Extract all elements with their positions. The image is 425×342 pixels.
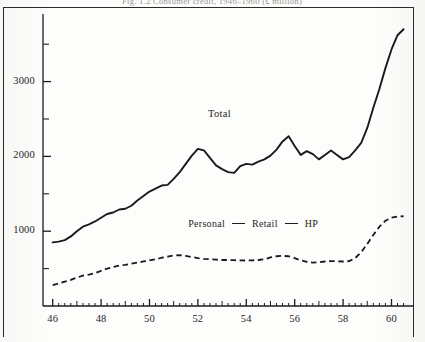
y-axis-tick-label: 3000: [1, 75, 35, 86]
y-axis-tick-label: 1000: [1, 224, 35, 235]
x-axis-tick-label: 52: [185, 313, 211, 324]
figure-page: Fig. 1.2 Consumer credit, 1946–1960 (£ m…: [0, 0, 425, 342]
x-axis-tick-label: 58: [330, 313, 356, 324]
x-axis-tick-label: 50: [136, 313, 162, 324]
x-axis-tick-label: 46: [40, 313, 66, 324]
series-line-total: [53, 29, 404, 242]
legend-label-retail: Retail: [252, 218, 278, 229]
line-chart: [0, 0, 425, 342]
chart-axes: [43, 14, 414, 306]
legend-dash-1: [232, 223, 245, 224]
chart-series-group: [53, 29, 404, 285]
annotation-total: Total: [208, 108, 231, 119]
y-axis-ticks: [43, 44, 51, 268]
x-axis-tick-label: 60: [378, 313, 404, 324]
legend-dash-2: [285, 223, 298, 224]
x-axis-ticks: [53, 299, 404, 306]
legend-label-hp: HP: [305, 218, 318, 229]
chart-legend: Personal Retail HP: [188, 218, 318, 229]
y-axis-tick-label: 2000: [1, 149, 35, 160]
x-axis-tick-label: 56: [282, 313, 308, 324]
legend-label-personal: Personal: [188, 218, 225, 229]
x-axis-tick-label: 48: [88, 313, 114, 324]
x-axis-tick-label: 54: [233, 313, 259, 324]
chart-plot-area: [0, 0, 425, 342]
